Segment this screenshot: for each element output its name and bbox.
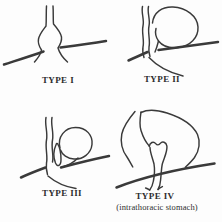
type-iii-hernia-sketch bbox=[21, 118, 109, 189]
type-i-hernia-sketch bbox=[4, 6, 106, 65]
type-ii-hernia-sketch bbox=[129, 7, 219, 77]
type-ii-label: TYPE II bbox=[124, 74, 200, 84]
type-iv-hernia-sketch bbox=[117, 110, 215, 190]
type-i-label: TYPE I bbox=[20, 75, 96, 85]
hernia-classification-figure: TYPE I TYPE II TYPE III TYPE IV (intrath… bbox=[0, 0, 222, 222]
type-iii-label: TYPE III bbox=[24, 188, 100, 198]
type-iv-label: TYPE IV bbox=[117, 191, 193, 201]
type-iv-sublabel: (intrathoracic stomach) bbox=[95, 202, 219, 212]
